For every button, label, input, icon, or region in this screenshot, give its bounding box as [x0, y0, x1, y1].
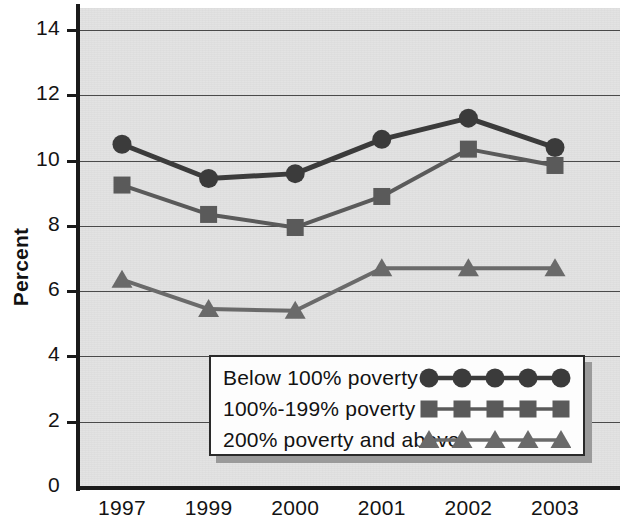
- y-tick-mark: [67, 355, 80, 358]
- square-data-point: [487, 401, 504, 418]
- gridline: [79, 30, 620, 31]
- y-tick-label: 4: [8, 342, 60, 366]
- line-chart: 02468101214 199719992000200120022003 Per…: [0, 0, 620, 532]
- y-tick-mark: [67, 421, 80, 424]
- gridline: [79, 161, 620, 162]
- y-axis-line: [76, 4, 80, 491]
- gridline: [79, 226, 620, 227]
- x-axis-line: [76, 486, 620, 490]
- circle-data-point: [552, 369, 571, 388]
- legend: Below 100% poverty 100%-199% poverty 200…: [209, 355, 585, 456]
- square-data-point: [421, 401, 438, 418]
- triangle-marker-icon: [419, 424, 571, 455]
- circle-data-point: [420, 369, 439, 388]
- y-tick-mark: [67, 225, 80, 228]
- legend-item-label: Below 100% poverty: [223, 366, 418, 390]
- y-tick-mark: [67, 29, 80, 32]
- x-tick-label: 2000: [255, 496, 335, 520]
- y-axis-title: Percent: [9, 202, 33, 332]
- square-data-point: [520, 401, 537, 418]
- x-tick-label: 2003: [515, 496, 595, 520]
- x-tick-label: 2002: [428, 496, 508, 520]
- square-data-point: [454, 401, 471, 418]
- y-tick-label: 14: [8, 16, 60, 40]
- y-tick-label: 10: [8, 147, 60, 171]
- legend-item-label: 100%-199% poverty: [223, 397, 416, 421]
- y-tick-label: 2: [8, 408, 60, 432]
- circle-data-point: [486, 369, 505, 388]
- circle-marker-icon: [419, 362, 571, 393]
- square-marker-icon: [419, 393, 571, 424]
- x-tick-label: 2001: [342, 496, 422, 520]
- legend-item: 200% poverty and above: [223, 424, 573, 455]
- x-tick-label: 1997: [82, 496, 162, 520]
- y-tick-label: 0: [8, 473, 60, 497]
- square-data-point: [553, 401, 570, 418]
- legend-item: Below 100% poverty: [223, 362, 573, 393]
- legend-item: 100%-199% poverty: [223, 393, 573, 424]
- gridline: [79, 95, 620, 96]
- y-tick-label: 12: [8, 81, 60, 105]
- x-tick-label: 1999: [169, 496, 249, 520]
- y-tick-mark: [67, 94, 80, 97]
- circle-data-point: [519, 369, 538, 388]
- circle-data-point: [453, 369, 472, 388]
- y-tick-mark: [67, 290, 80, 293]
- gridline: [79, 291, 620, 292]
- y-tick-mark: [67, 160, 80, 163]
